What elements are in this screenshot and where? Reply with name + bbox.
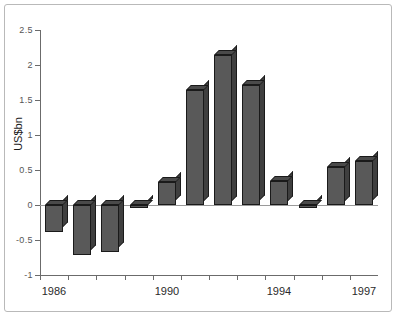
- bar-front-face: [101, 205, 119, 252]
- y-tick-label: 2.5: [1, 26, 33, 35]
- bar-front-face: [270, 181, 288, 206]
- x-tick-mark: [294, 275, 295, 280]
- y-tick-mark: [35, 100, 40, 101]
- y-tick-label: -1: [1, 271, 33, 280]
- x-tick-mark: [153, 275, 154, 280]
- x-tick-mark: [322, 275, 323, 280]
- bar-side-face: [232, 45, 237, 201]
- x-tick-label: 1990: [147, 285, 187, 297]
- y-tick-mark: [35, 30, 40, 31]
- bar-1988: [101, 200, 124, 247]
- bar-1997: [355, 156, 378, 200]
- x-tick-mark: [265, 275, 266, 280]
- x-tick-mark: [181, 275, 182, 280]
- y-tick-label: -0.5: [1, 236, 33, 245]
- bar-1989: [130, 200, 153, 203]
- bar-front-face: [186, 90, 204, 206]
- plot-area: US$bn 2.521.510.50-0.5-1 198619901994199…: [0, 0, 398, 320]
- bar-1996: [327, 162, 350, 201]
- y-tick-mark: [35, 205, 40, 206]
- bar-1995: [299, 200, 322, 203]
- bar-front-face: [45, 205, 63, 232]
- y-tick-label: 1.5: [1, 96, 33, 105]
- bar-front-face: [130, 205, 148, 208]
- y-tick-label: 1: [1, 131, 33, 140]
- x-tick-mark: [237, 275, 238, 280]
- y-axis-line: [40, 30, 41, 275]
- x-tick-mark: [96, 275, 97, 280]
- y-tick-mark: [35, 170, 40, 171]
- bar-1986: [45, 200, 68, 227]
- y-tick-mark: [35, 240, 40, 241]
- x-tick-label: 1994: [259, 285, 299, 297]
- x-tick-label: 1986: [34, 285, 74, 297]
- x-tick-mark: [125, 275, 126, 280]
- x-tick-mark: [350, 275, 351, 280]
- bar-1994: [270, 176, 293, 201]
- x-tick-mark: [40, 275, 41, 280]
- x-tick-label: 1997: [344, 285, 384, 297]
- bar-1987: [73, 200, 96, 250]
- x-tick-mark: [209, 275, 210, 280]
- chart-figure: US$bn 2.521.510.50-0.5-1 198619901994199…: [0, 0, 398, 320]
- y-tick-mark: [35, 135, 40, 136]
- bar-1991: [186, 85, 209, 201]
- bar-side-face: [260, 75, 265, 200]
- bar-front-face: [242, 85, 260, 205]
- bar-1992: [214, 50, 237, 201]
- bar-front-face: [327, 167, 345, 206]
- bar-front-face: [158, 182, 176, 205]
- bar-1993: [242, 80, 265, 200]
- bar-front-face: [355, 161, 373, 205]
- y-tick-label: 2: [1, 61, 33, 70]
- bar-side-face: [288, 171, 293, 201]
- bar-side-face: [204, 80, 209, 201]
- y-tick-mark: [35, 65, 40, 66]
- bar-front-face: [299, 205, 317, 208]
- bar-front-face: [73, 205, 91, 255]
- bar-1990: [158, 177, 181, 200]
- bar-front-face: [214, 55, 232, 206]
- y-tick-label: 0: [1, 201, 33, 210]
- y-tick-label: 0.5: [1, 166, 33, 175]
- x-tick-mark: [68, 275, 69, 280]
